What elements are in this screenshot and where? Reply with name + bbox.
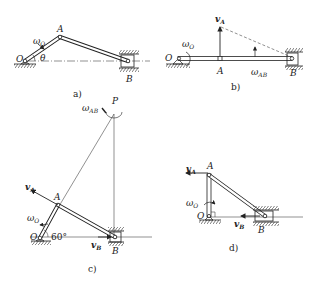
joint-a <box>58 35 62 39</box>
caption-c: c) <box>88 264 97 274</box>
point-b-label: B <box>111 246 119 256</box>
joint-a <box>207 173 211 177</box>
velocity-b-label: vB <box>234 219 244 230</box>
panel-b: vA ωO ωAB O A B b) <box>165 14 303 92</box>
point-o-label: O <box>30 232 38 242</box>
point-b-label: B <box>257 225 265 235</box>
joint-o <box>177 57 180 60</box>
caption-d: d) <box>229 243 238 253</box>
crank-oa <box>207 174 211 217</box>
omega-ab-label: ωAB <box>82 103 99 114</box>
panel-c: P ωAB vA A ωO O 60° vB B c) <box>25 96 152 274</box>
point-o-label: O <box>16 54 24 64</box>
point-a-label: A <box>56 24 64 34</box>
velocity-b-label: vB <box>91 240 101 251</box>
omega-o-label: ωO <box>33 36 45 47</box>
ground-hatch-o <box>14 64 36 68</box>
caption-a: a) <box>73 89 82 99</box>
omega-o-label: ωO <box>27 213 39 224</box>
joint-a <box>218 57 222 61</box>
velocity-a-label: vA <box>186 164 196 175</box>
panel-a: ωO θ O A B a) <box>14 24 150 99</box>
omega-o-label: ωO <box>182 39 194 50</box>
joint-o <box>23 59 27 63</box>
omega-o-label: ωO <box>186 198 198 209</box>
joint-b <box>290 57 294 61</box>
point-a-label: A <box>206 161 214 171</box>
joint-o <box>38 236 42 240</box>
velocity-a-label: vA <box>25 182 35 193</box>
joint-b <box>263 214 267 218</box>
point-o-label: O <box>197 211 205 221</box>
mechanism-diagram: ωO θ O A B a) vA ωO ωAB O A B <box>0 0 319 288</box>
point-a-label: A <box>216 66 224 76</box>
point-a-label: A <box>53 192 61 202</box>
rod-oab <box>178 57 292 61</box>
panel-d: vA A ωO O vB B d) <box>186 161 303 253</box>
joint-o <box>207 214 210 217</box>
caption-b: b) <box>231 82 240 92</box>
omega-ab-label: ωAB <box>251 67 268 78</box>
point-p-label: P <box>111 96 119 106</box>
joint-b <box>113 235 117 239</box>
point-b-label: B <box>289 68 297 78</box>
point-b-label: B <box>125 74 133 84</box>
angle-label: θ <box>40 53 46 63</box>
point-o-label: O <box>165 53 173 63</box>
velocity-a-label: vA <box>215 14 225 25</box>
angle-label: 60° <box>51 232 67 242</box>
joint-b <box>126 59 130 63</box>
